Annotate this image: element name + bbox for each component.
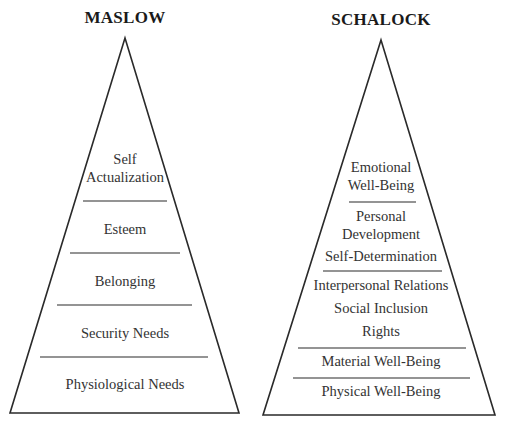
maslow-level-physiological-needs: Physiological Needs — [66, 375, 185, 394]
maslow-title: MASLOW — [84, 8, 165, 28]
schalock-level-personal-development-line2: Development — [342, 225, 420, 244]
schalock-title: SCHALOCK — [331, 10, 431, 30]
schalock-level-personal-development-line1: Personal — [356, 207, 406, 226]
schalock-level-social-inclusion: Social Inclusion — [334, 299, 428, 318]
schalock-level-physical-well-being: Physical Well-Being — [322, 382, 441, 401]
maslow-level-self-actualization-line1: Self — [113, 150, 136, 169]
schalock-level-interpersonal-relations: Interpersonal Relations — [314, 276, 449, 295]
maslow-level-esteem: Esteem — [104, 220, 147, 239]
schalock-level-self-determination: Self-Determination — [325, 247, 437, 266]
maslow-level-security-needs: Security Needs — [81, 324, 169, 343]
schalock-level-rights: Rights — [362, 322, 400, 341]
schalock-level-emotional-line1: Emotional — [351, 158, 411, 177]
schalock-level-emotional-line2: Well-Being — [348, 176, 414, 195]
maslow-level-self-actualization-line2: Actualization — [86, 168, 164, 187]
maslow-level-belonging: Belonging — [95, 272, 155, 291]
schalock-level-material-well-being: Material Well-Being — [322, 352, 441, 371]
